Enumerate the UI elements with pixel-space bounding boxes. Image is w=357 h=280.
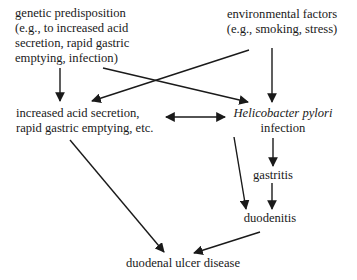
- diagram-canvas: — — — — — —: [0, 0, 357, 280]
- node-line: increased acid secretion,: [16, 106, 153, 121]
- node-line: emptying, infection): [15, 51, 129, 66]
- node-increased-acid-secretion: increased acid secretion, rapid gastric …: [16, 106, 153, 136]
- node-line: infection: [228, 121, 338, 136]
- node-duodenitis: duodenitis: [230, 211, 310, 226]
- node-gastritis: gastritis: [238, 168, 308, 183]
- node-line: rapid gastric emptying, etc.: [16, 121, 153, 136]
- arrow-increased-acid-to-ulcer: [70, 140, 164, 252]
- arrow-duodenitis-to-ulcer: [194, 232, 260, 253]
- node-line: environmental factors: [222, 7, 342, 22]
- node-environmental-factors: environmental factors (e.g., smoking, st…: [222, 7, 342, 37]
- organism-name: Helicobacter pylori: [228, 106, 338, 121]
- node-line: secretion, rapid gastric: [15, 36, 129, 51]
- node-genetic-predisposition: genetic predisposition (e.g., to increas…: [15, 6, 129, 66]
- node-h-pylori-infection: Helicobacter pylori infection: [228, 106, 338, 136]
- node-line: genetic predisposition: [15, 6, 129, 21]
- node-line: (e.g., smoking, stress): [222, 22, 342, 37]
- arrow-genetic-to-h-pylori: [103, 68, 248, 102]
- node-duodenal-ulcer-disease: duodenal ulcer disease: [118, 256, 248, 271]
- node-line: (e.g., to increased acid: [15, 21, 129, 36]
